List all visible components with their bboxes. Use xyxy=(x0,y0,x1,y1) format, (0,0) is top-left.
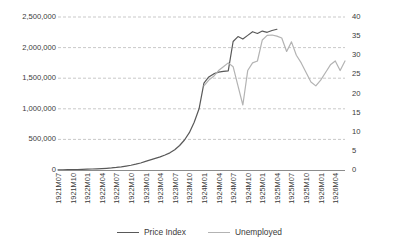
dual-axis-line-chart: 0500,0001,000,0001,500,0002,000,0002,500… xyxy=(0,0,399,248)
x-axis-tick-label: 1925M04 xyxy=(274,173,281,204)
x-axis-tick-label: 1923M01 xyxy=(143,173,150,204)
series-line-unemployed xyxy=(204,35,345,105)
y-axis-right-tick-label: 15 xyxy=(352,109,360,117)
x-axis-tick-label: 1923M04 xyxy=(157,173,164,204)
x-axis-ticks: 1921M071921M101922M011922M041922M071922M… xyxy=(58,173,345,233)
x-axis-tick-label: 1923M10 xyxy=(186,173,193,204)
y-axis-right-tick-label: 40 xyxy=(352,13,360,21)
legend-label: Price Index xyxy=(144,228,186,236)
y-axis-right-tick-label: 5 xyxy=(352,147,356,155)
x-axis-tick-label: 1926M04 xyxy=(332,173,339,204)
plot-area xyxy=(58,17,345,170)
y-axis-left-tick-label: 1,000,000 xyxy=(22,105,56,113)
y-axis-left-tick-label: 1,500,000 xyxy=(22,74,56,82)
series-lines-group xyxy=(58,17,345,170)
legend-item[interactable]: Unemployed xyxy=(208,228,282,236)
x-axis-tick-label: 1924M10 xyxy=(245,173,252,204)
x-axis-tick-label: 1925M07 xyxy=(288,173,295,204)
x-axis-tick-label: 1923M07 xyxy=(172,173,179,204)
y-axis-right-tick-label: 30 xyxy=(352,51,360,59)
x-axis-tick-label: 1922M01 xyxy=(84,173,91,204)
y-axis-left-tick-label: 2,000,000 xyxy=(22,44,56,52)
y-axis-right-tick-label: 0 xyxy=(352,166,356,174)
x-axis-tick-label: 1924M07 xyxy=(230,173,237,204)
x-axis-tick-label: 1924M04 xyxy=(216,173,223,204)
y-axis-right-tick-label: 25 xyxy=(352,70,360,78)
x-axis-tick-label: 1925M01 xyxy=(259,173,266,204)
x-axis-tick-label: 1926M01 xyxy=(318,173,325,204)
y-axis-right-tick-label: 10 xyxy=(352,128,360,136)
legend-item[interactable]: Price Index xyxy=(117,228,186,236)
legend-line-icon xyxy=(117,232,139,233)
x-axis-tick-label: 1922M07 xyxy=(113,173,120,204)
y-axis-left-tick-label: 500,000 xyxy=(29,135,56,143)
x-axis-tick-label: 1921M10 xyxy=(70,173,77,204)
x-axis-tick-label: 1924M01 xyxy=(201,173,208,204)
x-axis-tick-label: 1925M10 xyxy=(303,173,310,204)
chart-legend: Price IndexUnemployed xyxy=(0,228,399,236)
legend-label: Unemployed xyxy=(235,228,282,236)
x-axis-tick-label: 1922M10 xyxy=(128,173,135,204)
x-axis-tick-label: 1921M07 xyxy=(55,173,62,204)
y-axis-right-tick-label: 20 xyxy=(352,90,360,98)
y-axis-left-tick-label: 2,500,000 xyxy=(22,13,56,21)
y-axis-right-tick-label: 35 xyxy=(352,32,360,40)
x-axis-tick-label: 1922M04 xyxy=(99,173,106,204)
legend-line-icon xyxy=(208,232,230,233)
x-axis-baseline xyxy=(58,170,345,171)
